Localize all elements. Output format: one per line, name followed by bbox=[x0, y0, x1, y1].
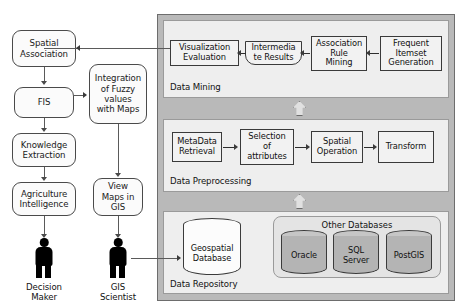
arrowhead-down bbox=[41, 128, 47, 132]
arrowhead-right bbox=[83, 92, 87, 98]
connector-freq-to-arm bbox=[369, 53, 379, 54]
connector-ke-to-ai bbox=[44, 167, 45, 177]
box-frequent-itemset-generation[interactable]: Frequent Itemset Generation bbox=[380, 36, 442, 71]
box-visualization-evaluation[interactable]: Visualization Evaluation bbox=[170, 40, 239, 66]
box-label: Transform bbox=[386, 142, 426, 152]
box-label: View Maps in GIS bbox=[102, 181, 134, 212]
box-spatial-operation[interactable]: Spatial Operation bbox=[311, 131, 363, 163]
other-databases-title: Other Databases bbox=[274, 220, 440, 230]
band-label-data-preprocessing: Data Preprocessing bbox=[170, 176, 251, 186]
box-knowledge-extraction[interactable]: Knowledge Extraction bbox=[12, 133, 76, 167]
arrowhead-right bbox=[177, 255, 181, 261]
arrowhead-down bbox=[41, 81, 47, 85]
diagram-canvas: Data Mining Visualization Evaluation Int… bbox=[0, 0, 460, 308]
box-intermediate-results[interactable]: Intermedia te Results bbox=[245, 41, 302, 65]
arrowhead-left bbox=[300, 50, 304, 56]
arrowhead-right bbox=[234, 144, 238, 150]
arrowhead-right bbox=[373, 144, 377, 150]
avatar-gis-scientist bbox=[105, 238, 131, 278]
box-label: FIS bbox=[38, 97, 51, 107]
box-integration-of-fuzzy-values-with-maps[interactable]: Integration of Fuzzy values with Maps bbox=[89, 64, 147, 124]
cylinder-label: Oracle bbox=[281, 251, 327, 261]
connector-sa-to-fis bbox=[44, 67, 45, 81]
avatar-decision-maker bbox=[31, 238, 57, 278]
connector-viewmaps-to-gis-scientist bbox=[118, 216, 119, 235]
cylinder-oracle[interactable]: Oracle bbox=[281, 230, 327, 274]
avatar-head bbox=[40, 238, 49, 247]
arrowhead-down bbox=[41, 177, 47, 181]
box-label: MetaData Retrieval bbox=[177, 137, 217, 157]
avatar-leg-left bbox=[36, 263, 42, 278]
connector-gis-scientist-to-geodb bbox=[131, 258, 179, 259]
actor-label-decision-maker: Decision Maker bbox=[16, 282, 72, 303]
box-selection-of-attributes[interactable]: Selection of attributes bbox=[240, 129, 294, 165]
box-label: Selection of attributes bbox=[247, 132, 287, 162]
cylinder-postgis[interactable]: PostGIS bbox=[386, 230, 432, 274]
arrowhead-left bbox=[366, 50, 370, 56]
box-agriculture-intelligence[interactable]: Agriculture Intelligence bbox=[12, 182, 76, 216]
connector-ai-to-decision-maker bbox=[44, 216, 45, 235]
band-label-data-repository: Data Repository bbox=[170, 279, 237, 289]
cylinder-label: PostGIS bbox=[386, 251, 432, 261]
arrowhead-left bbox=[237, 50, 241, 56]
box-view-maps-in-gis[interactable]: View Maps in GIS bbox=[93, 178, 143, 216]
connector-viz-to-spatial-association bbox=[44, 48, 170, 49]
connector-arm-to-intermediate bbox=[303, 53, 310, 54]
connector-integration-to-viewmaps bbox=[118, 124, 119, 173]
box-label: Association Rule Mining bbox=[316, 39, 362, 69]
box-transform[interactable]: Transform bbox=[378, 131, 434, 163]
avatar-leg-left bbox=[110, 263, 116, 278]
box-fis[interactable]: FIS bbox=[14, 87, 74, 118]
arrowhead-left bbox=[76, 45, 80, 51]
avatar-head bbox=[114, 238, 123, 247]
avatar-leg-right bbox=[45, 263, 51, 278]
cylinder-geospatial-database[interactable]: Geospatial Database bbox=[183, 218, 241, 275]
avatar-leg-right bbox=[119, 263, 125, 278]
box-label: Spatial Operation bbox=[317, 137, 357, 157]
arrowhead-right bbox=[306, 144, 310, 150]
cylinder-sql-server[interactable]: SQL Server bbox=[333, 230, 379, 274]
connector-fis-to-ke bbox=[44, 118, 45, 128]
box-metadata-retrieval[interactable]: MetaData Retrieval bbox=[172, 132, 222, 162]
cylinder-label: Geospatial Database bbox=[183, 244, 241, 264]
arrowhead-down bbox=[115, 173, 121, 177]
connector-intermediate-to-viz bbox=[241, 53, 246, 54]
box-label: Integration of Fuzzy values with Maps bbox=[95, 73, 141, 115]
actor-label-gis-scientist: GIS Scientist bbox=[90, 282, 146, 303]
box-label: Knowledge Extraction bbox=[21, 140, 67, 161]
box-label: Agriculture Intelligence bbox=[20, 189, 69, 210]
box-label: Intermedia te Results bbox=[251, 43, 295, 63]
band-label-data-mining: Data Mining bbox=[170, 82, 221, 92]
box-label: Visualization Evaluation bbox=[179, 43, 230, 63]
box-label: Frequent Itemset Generation bbox=[388, 39, 433, 69]
cylinder-label: SQL Server bbox=[333, 246, 379, 266]
box-association-rule-mining[interactable]: Association Rule Mining bbox=[311, 36, 367, 71]
